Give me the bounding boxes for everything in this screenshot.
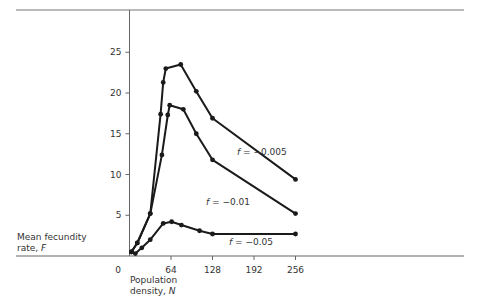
y-tick-label: 20 [110,88,122,98]
x-tick-label: 64 [165,265,177,275]
y-axis-title-line2: rate, [17,243,41,253]
y-axis-variable: F [41,243,46,253]
y-tick-label: 15 [110,129,121,139]
y-axis-title-line1: Mean fecundity [17,232,87,243]
data-point [161,80,166,85]
data-point [135,241,140,246]
x-axis-title-line1: Population [130,275,177,286]
x-axis-title-line2: density, [130,286,169,296]
data-point [293,211,298,216]
data-point [163,66,168,71]
data-point [139,245,144,250]
data-point [181,107,186,112]
data-point [165,113,170,118]
data-point [133,251,138,256]
data-point [293,177,298,182]
y-ticks: 510152025 [110,47,129,220]
data-point [178,62,183,67]
y-axis-title: Mean fecundity rate, F [17,232,87,254]
x-tick-label: 192 [245,265,262,275]
data-point [158,112,163,117]
x-ticks: 064128192256 [115,256,304,275]
data-point [194,131,199,136]
x-tick-label: 256 [287,265,304,275]
data-point [160,153,165,158]
x-axis-variable: N [169,286,176,296]
data-point [169,219,174,224]
y-tick-label: 10 [110,170,122,180]
data-point [210,116,215,121]
data-point [293,232,298,237]
series-label-2: f = −0.05 [229,237,273,247]
data-point [197,228,202,233]
data-point [210,232,215,237]
y-tick-label: 5 [116,210,122,220]
fecundity-chart: 510152025 064128192256 f = −0.005f = −0.… [0,0,482,307]
data-point [179,223,184,228]
series-line-1 [131,105,295,252]
series-label-0: f = −0.005 [237,147,287,157]
data-point [161,221,166,226]
series-labels: f = −0.005f = −0.01f = −0.05 [206,147,287,247]
data-point [167,103,172,108]
x-tick-label: 0 [115,265,121,275]
series-lines [129,62,298,256]
data-point [148,211,153,216]
data-point [194,89,199,94]
series-label-1: f = −0.01 [206,197,250,207]
data-point [148,237,153,242]
y-tick-label: 25 [110,47,121,57]
x-tick-label: 128 [204,265,221,275]
x-axis-title: Population density, N [130,275,177,297]
data-point [210,157,215,162]
